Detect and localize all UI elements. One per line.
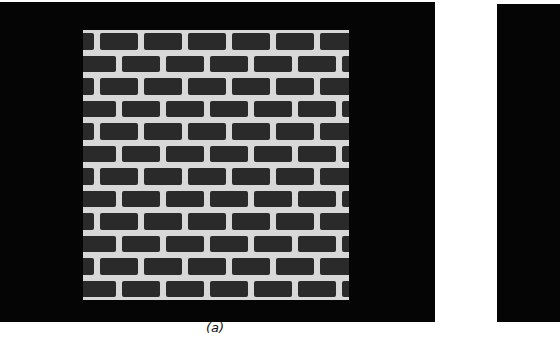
brick [100,123,138,140]
brick [342,281,349,298]
brick [320,168,349,185]
brick [166,56,204,73]
brick [232,213,270,230]
brick [166,101,204,118]
brick-row [83,30,349,53]
brick [100,33,138,50]
brick [232,258,270,275]
brick [276,258,314,275]
brick [100,78,138,95]
brick [83,123,94,140]
brick-row [83,210,349,233]
brick [276,33,314,50]
brick [210,281,248,298]
brick [83,281,116,298]
brick [83,236,116,253]
brick [188,123,226,140]
brick [232,123,270,140]
brick [342,146,349,163]
brick [83,168,94,185]
brick [122,236,160,253]
brick-row [83,255,349,278]
brick [254,281,292,298]
brick [100,168,138,185]
figure-panel-b-cropped [497,4,560,322]
brick-row [83,75,349,98]
brick [144,123,182,140]
brick [276,213,314,230]
caption-a: (a) [203,320,227,335]
brick [320,78,349,95]
brick [298,101,336,118]
brick [166,281,204,298]
brick [100,213,138,230]
brick [100,258,138,275]
brick [144,78,182,95]
brick [188,33,226,50]
brick [210,146,248,163]
brick [122,101,160,118]
brick [210,101,248,118]
brick [210,236,248,253]
brick [210,191,248,208]
brick-row [83,233,349,256]
brick-row [83,53,349,76]
brick [83,191,116,208]
brick [342,236,349,253]
brick [254,101,292,118]
brick-row [83,165,349,188]
brick [166,236,204,253]
brick-row [83,98,349,121]
brick [166,191,204,208]
brick [232,168,270,185]
brick [83,258,94,275]
brick [188,258,226,275]
brick [320,258,349,275]
brick [83,33,94,50]
brick [166,146,204,163]
brick [83,101,116,118]
brick [83,213,94,230]
brick-row [83,143,349,166]
brick [342,56,349,73]
brick [144,168,182,185]
brick [83,56,116,73]
brick-row [83,278,349,301]
brick [210,56,248,73]
brick [298,56,336,73]
brick-row [83,188,349,211]
brick [254,236,292,253]
brick [83,146,116,163]
brick [232,33,270,50]
brick [298,146,336,163]
brick [342,101,349,118]
brick [188,213,226,230]
brick [188,78,226,95]
brick [276,168,314,185]
brick [122,146,160,163]
brick [320,123,349,140]
brick-row [83,120,349,143]
brick [298,191,336,208]
brick [320,213,349,230]
brick [144,213,182,230]
brick [232,78,270,95]
figure-panel-a [0,2,435,322]
brick [276,123,314,140]
brick [83,78,94,95]
brick [122,191,160,208]
brick [298,236,336,253]
brick [122,56,160,73]
brick [298,281,336,298]
brick [254,56,292,73]
brick [122,281,160,298]
brick [342,191,349,208]
brick [188,168,226,185]
brick [144,258,182,275]
brick [320,33,349,50]
brick [254,191,292,208]
brick [276,78,314,95]
brick-wall-texture [83,30,349,300]
brick [254,146,292,163]
brick [144,33,182,50]
